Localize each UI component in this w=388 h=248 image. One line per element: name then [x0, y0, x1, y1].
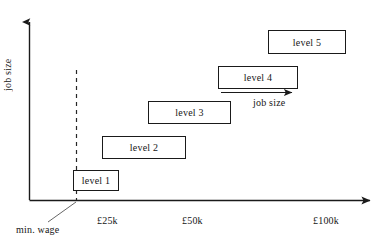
x-tick-label-25k: £25k: [97, 215, 118, 226]
level-box-label: level 1: [82, 175, 110, 186]
min-wage-annotation: min. wage: [16, 224, 59, 235]
y-axis-label: job size: [2, 40, 16, 110]
x-tick-label-50k: £50k: [182, 215, 203, 226]
level-box-3: level 3: [148, 101, 231, 124]
level-box-4: level 4: [218, 66, 298, 89]
diagram-canvas: job size level 1 level 2 level 3 level 4…: [0, 0, 388, 248]
level-box-2: level 2: [102, 136, 186, 159]
level-box-5: level 5: [268, 30, 346, 54]
level-box-label: level 2: [130, 142, 158, 153]
x-tick-label-100k: £100k: [313, 215, 339, 226]
level-box-label: level 5: [293, 37, 321, 48]
level-box-1: level 1: [73, 170, 119, 191]
level-box-label: level 3: [175, 107, 203, 118]
level-box-label: level 4: [244, 72, 272, 83]
min-wage-leader-line: [48, 202, 76, 222]
job-size-arrow-caption: job size: [253, 97, 285, 108]
